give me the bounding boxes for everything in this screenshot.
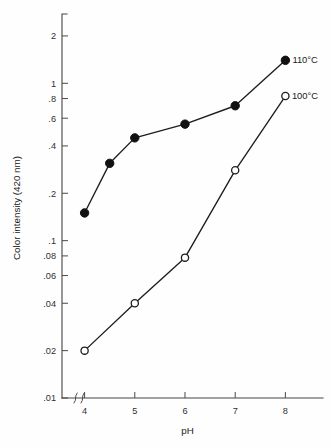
series-label-1: 100°C [292,90,318,101]
figure-container: .01.02.04.06.08.1.2.4.6.812 Color intens… [0,0,331,447]
y-tick-label: 2 [51,31,56,41]
x-tick-label: 5 [132,406,137,416]
y-tick-label: .8 [48,94,56,104]
y-tick-label: .01 [43,393,56,403]
y-axis-group: .01.02.04.06.08.1.2.4.6.812 Color intens… [11,14,68,403]
y-tick-label: .1 [48,236,56,246]
y-tick-label: .6 [48,114,56,124]
data-point [131,134,139,142]
y-tick-labels: .01.02.04.06.08.1.2.4.6.812 [43,31,56,403]
data-point [181,254,188,261]
data-series-layer [80,56,289,354]
data-point [131,300,138,307]
y-tick-label: .04 [43,299,56,309]
x-tick-marks [85,392,286,398]
data-point [80,209,88,217]
data-point [81,347,88,354]
y-tick-label: .06 [43,271,56,281]
x-tick-label: 4 [82,406,87,416]
data-point [282,92,289,99]
y-tick-label: .08 [43,251,56,261]
chart-plot: .01.02.04.06.08.1.2.4.6.812 Color intens… [0,0,331,447]
y-tick-label: 1 [51,79,56,89]
x-tick-label: 8 [283,406,288,416]
y-tick-label: .02 [43,346,56,356]
series-line-1 [85,96,286,351]
series-line-0 [85,60,286,213]
y-axis-line [62,14,67,398]
y-tick-marks [62,36,68,398]
data-point [281,56,289,64]
y-axis-title: Color intensity (420 nm) [11,156,22,260]
x-tick-label: 6 [182,406,187,416]
y-tick-label: .4 [48,141,56,151]
data-point [105,159,113,167]
series-label-0: 110°C [292,54,318,65]
data-point [231,102,239,110]
series-labels-layer: 110°C100°C [292,54,318,101]
x-tick-label: 7 [233,406,238,416]
x-axis-title: pH [181,425,194,436]
data-point [232,167,239,174]
data-point [181,120,189,128]
x-axis-group: 45678 pH [62,392,323,436]
y-tick-label: .2 [48,189,56,199]
x-tick-labels: 45678 [82,406,288,416]
